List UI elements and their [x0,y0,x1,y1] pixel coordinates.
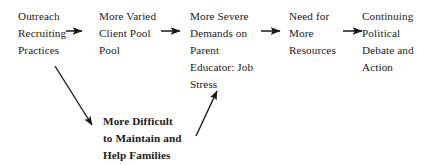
node-line: Outreach [18,8,66,25]
node-line: Stress [190,76,253,93]
node-more-severe-demands-job-stress: More Severe Demands on Parent Educator: … [190,8,253,93]
node-line: Client Pool [99,25,156,42]
node-line: More Difficult [103,113,182,130]
node-line: Need for [289,8,336,25]
node-line: Demands on [190,25,253,42]
node-continuing-political-debate: Continuing Political Debate and Action [362,8,414,76]
node-line: More Varied [99,8,156,25]
node-line: Parent [190,42,253,59]
node-line: Continuing [362,8,414,25]
node-line: Help Families [103,147,182,164]
node-outreach-recruiting-practices: Outreach Recruiting Practices [18,8,66,59]
node-line: to Maintain and [103,130,182,147]
node-line: Educator: Job [190,59,253,76]
node-more-difficult-maintain-help-families: More Difficult to Maintain and Help Fami… [103,113,182,164]
node-line: Action [362,59,414,76]
node-need-for-more-resources: Need for More Resources [289,8,336,59]
node-line: Resources [289,42,336,59]
node-line: Debate and [362,42,414,59]
arrow-more-difficult-to-demands [196,91,217,136]
node-more-varied-client-pool: More Varied Client Pool Pool [99,8,156,59]
node-line: Pool [99,42,156,59]
node-line: Political [362,25,414,42]
flow-diagram: Outreach Recruiting Practices More Varie… [0,0,441,165]
arrow-outreach-to-more-difficult [55,66,92,125]
node-line: More Severe [190,8,253,25]
node-line: Recruiting [18,25,66,42]
node-line: Practices [18,42,66,59]
node-line: More [289,25,336,42]
